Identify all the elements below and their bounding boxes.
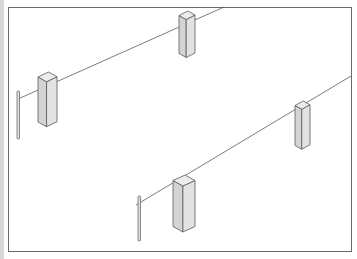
box-upper-middle (179, 11, 195, 58)
boxes-group (38, 11, 310, 232)
lower-pole (138, 196, 141, 241)
poles-group (17, 91, 141, 241)
lower-wire (136, 76, 351, 205)
box-lower-middle (173, 175, 195, 232)
illustration-canvas (0, 0, 357, 259)
box-right (295, 101, 310, 149)
box-upper-left (38, 72, 57, 127)
upper-pole (17, 91, 20, 139)
